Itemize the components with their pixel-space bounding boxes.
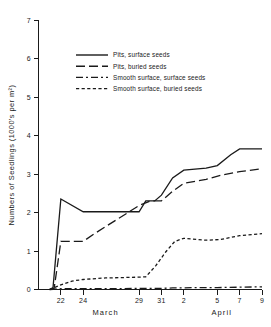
month-label: March bbox=[92, 308, 118, 317]
legend-label: Pits, surface seeds bbox=[113, 51, 170, 58]
y-tick-label: 4 bbox=[27, 132, 31, 139]
x-axis-month-labels: MarchApril bbox=[92, 308, 232, 317]
x-tick-label: 22 bbox=[57, 297, 65, 304]
y-axis-title: Numbers of Seedlings (1000's per m²) bbox=[7, 85, 16, 226]
x-tick-label: 2 bbox=[182, 297, 186, 304]
y-tick-label: 7 bbox=[27, 17, 31, 24]
y-tick-label: 6 bbox=[27, 55, 31, 62]
legend-label: Smooth surface, buried seeds bbox=[113, 85, 202, 92]
month-label: April bbox=[212, 308, 233, 317]
x-tick-label: 31 bbox=[157, 297, 165, 304]
y-tick-label: 3 bbox=[27, 171, 31, 178]
x-tick-label: 24 bbox=[79, 297, 87, 304]
y-tick-label: 2 bbox=[27, 209, 31, 216]
chart-legend: Pits, surface seedsPits, buried seedsSmo… bbox=[76, 51, 205, 92]
y-tick-label: 5 bbox=[27, 94, 31, 101]
x-axis-tick-labels: 222429312579 bbox=[57, 297, 264, 304]
y-tick-label: 0 bbox=[27, 286, 31, 293]
legend-label: Pits, buried seeds bbox=[113, 63, 167, 70]
series-paths bbox=[50, 149, 262, 290]
y-tick-label: 1 bbox=[27, 248, 31, 255]
x-tick-label: 5 bbox=[215, 297, 219, 304]
line-chart: 01234567 222429312579 MarchApril Numbers… bbox=[0, 0, 271, 327]
x-tick-label: 29 bbox=[135, 297, 143, 304]
x-tick-label: 9 bbox=[260, 297, 264, 304]
y-axis-ticks bbox=[34, 20, 39, 290]
figure-container: 01234567 222429312579 MarchApril Numbers… bbox=[0, 0, 271, 327]
series-line bbox=[50, 169, 262, 290]
series-line bbox=[50, 234, 262, 290]
series-line bbox=[50, 149, 262, 290]
legend-label: Smooth surface, surface seeds bbox=[113, 74, 205, 81]
x-tick-label: 7 bbox=[238, 297, 242, 304]
x-axis-ticks bbox=[61, 290, 262, 295]
y-axis-tick-labels: 01234567 bbox=[27, 17, 31, 294]
